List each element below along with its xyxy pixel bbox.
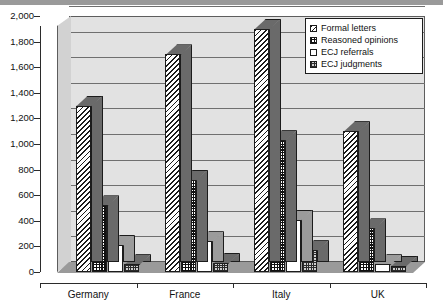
legend-item: Reasoned opinions <box>310 34 416 46</box>
bar-front-face <box>76 106 91 272</box>
bar-side-face <box>107 195 119 262</box>
gridline <box>69 6 425 7</box>
legend-label: ECJ judgments <box>321 60 382 69</box>
bar-front-face <box>213 263 228 272</box>
legend-swatch-icon <box>310 25 317 32</box>
x-axis-label-uk: UK <box>330 289 427 300</box>
bar-side-face <box>358 121 370 262</box>
x-axis-tick-mark <box>426 283 427 288</box>
x-axis-tick-mark <box>137 283 138 288</box>
legend: Formal lettersReasoned opinionsECJ refer… <box>305 18 423 74</box>
x-axis-label-germany: Germany <box>40 289 137 300</box>
legend-label: Reasoned opinions <box>321 36 398 45</box>
bar-side-face <box>285 130 297 262</box>
plot-left-wall <box>57 16 71 272</box>
legend-label: ECJ referrals <box>321 48 374 57</box>
x-axis-tick-mark <box>40 283 41 288</box>
bar-chart: 2,0001,8001,6001,4001,2001,0008006004002… <box>0 0 443 303</box>
legend-swatch-icon <box>310 37 317 44</box>
x-axis-tick-mark <box>330 283 331 288</box>
bar-front-face <box>391 266 406 272</box>
gridline <box>69 83 425 84</box>
gridline <box>69 108 425 109</box>
x-axis-label-italy: Italy <box>233 289 330 300</box>
x-axis-tick-mark <box>233 283 234 288</box>
bar-uk-ecj-judgments <box>391 266 406 272</box>
legend-swatch-icon <box>310 49 317 56</box>
bar-side-face <box>180 44 192 262</box>
bar-uk-formal-letters <box>343 131 358 272</box>
bar-france-formal-letters <box>165 54 180 272</box>
bar-germany-ecj-judgments <box>124 264 139 272</box>
gridline <box>69 211 425 212</box>
bar-side-face <box>91 96 103 262</box>
bar-side-face <box>269 19 281 262</box>
bar-front-face <box>375 264 390 272</box>
gridline <box>69 160 425 161</box>
bar-germany-formal-letters <box>76 106 91 272</box>
legend-label: Formal letters <box>321 24 376 33</box>
legend-item: ECJ judgments <box>310 58 416 70</box>
bar-front-face <box>124 264 139 272</box>
legend-swatch-icon <box>310 61 317 68</box>
bar-side-face <box>196 170 208 262</box>
bar-front-face <box>165 54 180 272</box>
bar-front-face <box>343 131 358 272</box>
bar-front-face <box>254 29 269 272</box>
x-axis-label-france: France <box>137 289 234 300</box>
gridline <box>69 134 425 135</box>
legend-item: ECJ referrals <box>310 46 416 58</box>
bar-uk-ecj-referrals <box>375 264 390 272</box>
legend-item: Formal letters <box>310 22 416 34</box>
gridline <box>69 185 425 186</box>
bar-france-ecj-judgments <box>213 263 228 272</box>
bar-italy-formal-letters <box>254 29 269 272</box>
